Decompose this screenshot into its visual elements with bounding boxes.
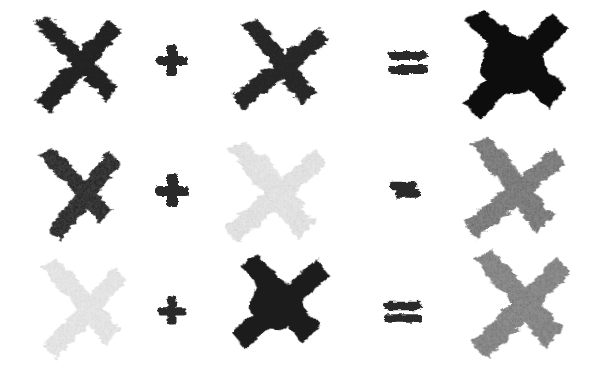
x-mark-result-midgray-3 [456, 248, 574, 366]
plus-operator [152, 40, 192, 80]
x-mark-result-midgray-2 [452, 134, 566, 248]
equation-row [0, 6, 593, 122]
brush-x-glyph [14, 4, 134, 124]
brush-x-glyph [449, 131, 569, 251]
x-mark-dark-a2 [26, 142, 126, 242]
x-mark-light-b2 [214, 138, 328, 252]
plus-operator [154, 292, 190, 328]
plus-icon [152, 170, 192, 210]
equation-row [0, 128, 593, 244]
brush-x-glyph [218, 246, 335, 363]
plus-operator [152, 170, 192, 210]
brush-x-glyph [217, 7, 336, 126]
equals-operator [386, 44, 430, 80]
equals-icon [382, 296, 424, 328]
equation-row [0, 248, 593, 362]
equals-operator [388, 178, 422, 203]
brush-x-glyph [212, 136, 330, 254]
equals-operator [382, 296, 424, 328]
x-mark-dark-b1 [222, 12, 330, 120]
brush-x-glyph [23, 253, 134, 364]
artwork-canvas [0, 0, 593, 366]
plus-icon [154, 292, 190, 328]
brush-x-glyph [20, 136, 133, 249]
brush-x-glyph [450, 2, 576, 128]
equals-icon [386, 44, 430, 80]
x-mark-result-darkest [452, 4, 574, 126]
x-mark-light-a3 [26, 256, 132, 362]
x-mark-dark-b3 [222, 250, 332, 360]
equals-icon [388, 178, 422, 203]
x-mark-dark-a1 [18, 8, 130, 120]
brush-x-glyph [455, 247, 575, 366]
plus-icon [152, 40, 192, 80]
